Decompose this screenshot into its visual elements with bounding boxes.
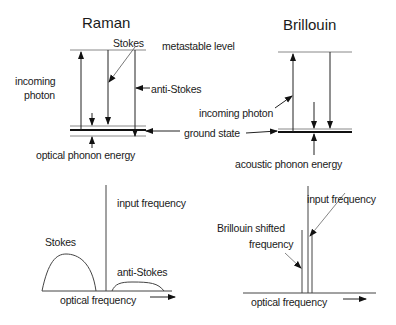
raman-anti-stokes-label: anti-Stokes [151,83,201,95]
raman-title: Raman [82,14,130,31]
brillouin-shifted-label-1: Brillouin shifted [217,222,285,234]
raman-incoming-label-2: photon [24,89,55,101]
raman-anti-stokes-band [112,282,164,291]
metastable-level-label: metastable level [162,40,235,52]
raman-energy-diagram [70,47,180,148]
brillouin-energy-diagram [246,52,352,155]
brillouin-shifted-label-2: frequency [249,238,293,250]
brillouin-incoming-pointer [275,96,292,108]
brillouin-shifted-pointer [285,253,301,268]
optical-phonon-energy-label: optical phonon energy [36,149,135,161]
brillouin-input-frequency-label: input frequency [307,193,376,205]
raman-stokes-label: Stokes [113,37,144,49]
brillouin-ground-pointer [246,131,277,133]
raman-stokes-band [42,254,96,291]
brillouin-incoming-label: incoming photon [199,107,273,119]
raman-optical-frequency-label: optical frequency [60,294,136,306]
ground-state-label: ground state [184,127,240,139]
brillouin-optical-frequency-label: optical frequency [251,296,327,308]
raman-stokes-pointer [109,47,135,82]
raman-spectrum-anti-stokes-label: anti-Stokes [117,266,167,278]
raman-input-frequency-label: input frequency [117,197,186,209]
raman-spectrum-stokes-label: Stokes [45,236,76,248]
raman-incoming-label-1: incoming [15,75,55,87]
brillouin-title: Brillouin [283,16,336,33]
acoustic-phonon-energy-label: acoustic phonon energy [235,158,342,170]
